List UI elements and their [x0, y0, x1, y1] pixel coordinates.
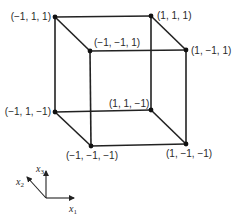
edge-vertical-front-left — [90, 51, 91, 146]
cube-edges — [55, 16, 186, 146]
vertex-dot-m1-m1-m1 — [89, 144, 94, 149]
edge-top-left — [55, 17, 90, 51]
edge-bottom-right — [151, 110, 186, 144]
vertex-dot-1-1-1 — [149, 14, 154, 19]
vertex-label-m1-1-m1: (−1, 1, −1) — [5, 106, 51, 117]
vertex-dot-m1-m1-1 — [88, 49, 93, 54]
vertex-dot-1-1-m1 — [149, 108, 154, 113]
vertex-label-1-m1-m1: (1, −1, −1) — [166, 148, 212, 159]
vertex-label-m1-m1-1: (−1, −1, 1) — [94, 37, 140, 48]
vertex-dot-1-m1-1 — [184, 48, 189, 53]
edge-top-right — [151, 16, 186, 50]
edge-top-back — [55, 16, 151, 17]
x2-axis-arrow-icon — [27, 177, 46, 198]
cube-diagram: (−1, 1, 1) (1, 1, 1) (−1, −1, 1) (1, −1,… — [0, 0, 236, 220]
edge-bottom-back — [55, 110, 151, 112]
vertex-label-m1-m1-m1: (−1, −1, −1) — [66, 150, 118, 161]
vertex-label-m1-1-1: (−1, 1, 1) — [11, 11, 51, 22]
x3-axis-label: x3 — [35, 163, 44, 176]
vertex-dot-1-m1-m1 — [184, 142, 189, 147]
vertex-dot-m1-1-m1 — [53, 110, 58, 115]
vertex-labels: (−1, 1, 1) (1, 1, 1) (−1, −1, 1) (1, −1,… — [5, 10, 231, 161]
vertex-label-1-m1-1: (1, −1, 1) — [191, 45, 231, 56]
x2-axis-label: x2 — [15, 176, 24, 189]
vertex-label-1-1-m1: (1, 1, −1) — [109, 98, 149, 109]
edge-bottom-front — [91, 144, 186, 146]
vertex-dot-m1-1-1 — [53, 15, 58, 20]
axes-legend: x1 x3 x2 — [15, 163, 77, 216]
vertex-label-1-1-1: (1, 1, 1) — [157, 10, 191, 21]
edge-bottom-left — [55, 112, 91, 146]
edge-top-front — [90, 50, 186, 51]
x1-axis-label: x1 — [68, 203, 77, 216]
